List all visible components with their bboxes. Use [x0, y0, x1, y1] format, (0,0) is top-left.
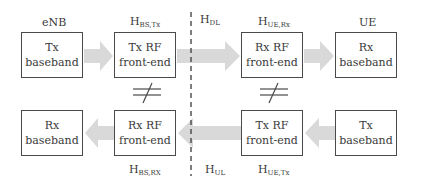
box-text: Tx	[45, 40, 59, 55]
h-ue-rx-label: HUE,Rx	[258, 15, 290, 29]
not-equal-icon	[260, 83, 288, 103]
ue-tx-baseband-box: Tx baseband	[335, 110, 397, 156]
h-ul-label: HUL	[205, 163, 225, 177]
box-text: Rx	[359, 40, 374, 55]
arrow-left-icon	[85, 118, 114, 148]
box-text: baseband	[339, 133, 392, 148]
h-dl-label: HDL	[200, 13, 220, 27]
box-text: Tx	[359, 118, 373, 133]
arrow-left-icon	[305, 118, 335, 148]
box-text: baseband	[25, 133, 78, 148]
arrow-right-icon	[177, 41, 240, 71]
box-text: baseband	[25, 55, 78, 70]
box-text: front-end	[119, 55, 171, 70]
enb-label: eNB	[42, 16, 66, 29]
box-text: front-end	[119, 133, 171, 148]
enb-rx-baseband-box: Rx baseband	[21, 110, 83, 156]
box-text: Rx RF	[255, 40, 289, 55]
box-text: front-end	[246, 133, 298, 148]
box-text: Rx RF	[128, 118, 162, 133]
arrow-right-icon	[84, 41, 113, 71]
ue-label: UE	[359, 16, 376, 29]
box-text: front-end	[246, 55, 298, 70]
h-bs-tx-label: HBS,Tx	[130, 15, 160, 29]
box-text: Rx	[45, 118, 60, 133]
box-text: Tx RF	[129, 40, 162, 55]
not-equal-icon	[133, 83, 161, 103]
enb-tx-baseband-box: Tx baseband	[21, 32, 83, 78]
h-bs-rx-label: HBS,RX	[129, 163, 161, 177]
ue-rx-baseband-box: Rx baseband	[335, 32, 397, 78]
enb-rx-rf-frontend-box: Rx RF front-end	[114, 110, 176, 156]
box-text: Tx RF	[256, 118, 289, 133]
arrow-left-icon	[178, 118, 241, 148]
ue-rx-rf-frontend-box: Rx RF front-end	[241, 32, 303, 78]
ue-tx-rf-frontend-box: Tx RF front-end	[241, 110, 303, 156]
h-ue-tx-label: HUE,Tx	[258, 163, 289, 177]
enb-tx-rf-frontend-box: Tx RF front-end	[114, 32, 176, 78]
arrow-right-icon	[304, 41, 334, 71]
box-text: baseband	[339, 55, 392, 70]
